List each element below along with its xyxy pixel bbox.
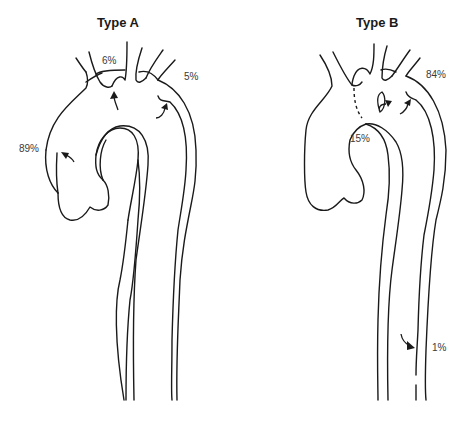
curled-arrow-icon: [378, 92, 392, 112]
pct-label: 6%: [102, 55, 116, 66]
pct-label: 89%: [19, 143, 39, 154]
type-b-arrows: [236, 0, 472, 424]
arrow-icon: [61, 152, 74, 162]
pct-label: 84%: [426, 69, 446, 80]
pct-label: 5%: [184, 71, 198, 82]
type-b-panel: Type B: [236, 0, 472, 424]
arrow-icon: [401, 334, 415, 350]
arrow-icon: [400, 99, 411, 114]
pct-label: 1%: [432, 342, 446, 353]
pct-label: 15%: [350, 133, 370, 144]
arrow-icon: [110, 91, 118, 110]
type-a-arrows: [0, 0, 236, 424]
arrow-icon: [156, 103, 168, 118]
type-a-panel: Type A: [0, 0, 236, 424]
